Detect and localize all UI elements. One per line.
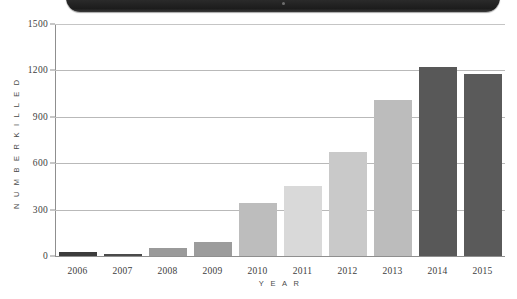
y-axis-tick-labels: 030060090012001500: [0, 24, 48, 256]
x-axis-title: Y E A R: [55, 279, 505, 288]
y-tick-label-0: 0: [4, 251, 48, 261]
x-tick-label-2015: 2015: [460, 266, 505, 276]
bar-2006[interactable]: [59, 252, 97, 256]
y-tick-mark-300: [50, 209, 55, 210]
y-tick-mark-0: [50, 256, 55, 257]
bar-2008[interactable]: [149, 248, 187, 257]
x-tick-label-2014: 2014: [415, 266, 460, 276]
x-tick-label-2013: 2013: [370, 266, 415, 276]
x-tick-label-2009: 2009: [190, 266, 235, 276]
bar-2011[interactable]: [284, 186, 322, 256]
y-tick-mark-1200: [50, 70, 55, 71]
gridline-0: [55, 256, 505, 257]
plot-area: [55, 24, 505, 256]
y-tick-label-300: 300: [4, 205, 48, 215]
bar-2014[interactable]: [419, 67, 457, 256]
x-tick-label-2008: 2008: [145, 266, 190, 276]
y-tick-mark-1500: [50, 24, 55, 25]
bar-2010[interactable]: [239, 203, 277, 256]
x-tick-label-2006: 2006: [55, 266, 100, 276]
y-tick-label-600: 600: [4, 158, 48, 168]
x-tick-label-2012: 2012: [325, 266, 370, 276]
x-tick-label-2010: 2010: [235, 266, 280, 276]
y-tick-label-1500: 1500: [4, 19, 48, 29]
x-axis-tick-labels: 2006200720082009201020112012201320142015: [55, 260, 505, 276]
bar-2015[interactable]: [464, 74, 502, 257]
y-tick-label-1200: 1200: [4, 65, 48, 75]
gridline-1500: [55, 24, 505, 25]
x-tick-label-2007: 2007: [100, 266, 145, 276]
bar-2012[interactable]: [329, 152, 367, 256]
y-tick-label-900: 900: [4, 112, 48, 122]
y-tick-mark-900: [50, 116, 55, 117]
bar-2009[interactable]: [194, 242, 232, 256]
bar-chart-figure: N U M B E R K I L L E D 0300600900120015…: [0, 0, 517, 299]
bar-2007[interactable]: [104, 254, 142, 256]
bar-2013[interactable]: [374, 100, 412, 256]
x-tick-label-2011: 2011: [280, 266, 325, 276]
y-tick-mark-600: [50, 163, 55, 164]
